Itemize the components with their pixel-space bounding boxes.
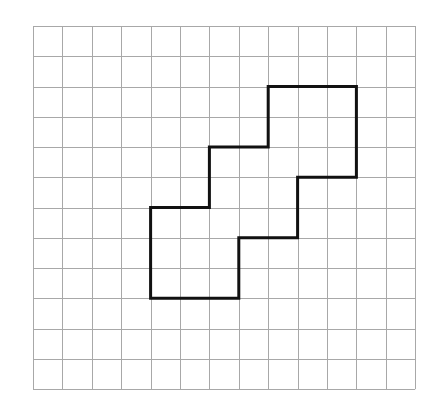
staircase-polygon [151,87,357,299]
grid-figure [0,0,435,418]
grid-lines [33,26,416,390]
